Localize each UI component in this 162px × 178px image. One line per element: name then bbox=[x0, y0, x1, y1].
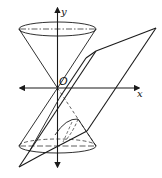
x-axis-label: x bbox=[137, 88, 143, 99]
origin-label: O bbox=[59, 75, 68, 88]
intersection-curve bbox=[55, 119, 78, 142]
conic-section-diagram: y x O bbox=[0, 0, 162, 178]
axes bbox=[20, 8, 139, 167]
diagram-canvas: y x O bbox=[0, 0, 162, 178]
y-axis-label: y bbox=[60, 6, 67, 17]
